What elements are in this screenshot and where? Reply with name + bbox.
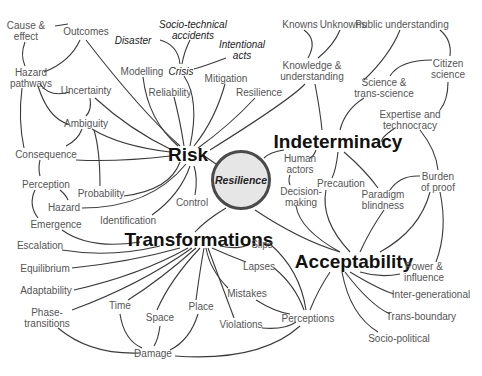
node-hazard-pathways: Hazard pathways [10,67,52,89]
node-phase-transitions: Phase- transitions [24,307,70,329]
edge-knowledge-indeterminacy [315,84,322,130]
edge-time-transformations [128,248,196,300]
node-public-understanding: Public understanding [355,19,448,30]
node-perceptions: Perceptions [282,313,335,324]
edge-consequence-risk [76,156,170,161]
edge-burden-power [436,192,443,262]
node-trans-boundary: Trans-boundary [386,311,456,322]
node-decision-making: Decision- making [280,186,322,208]
edge-equilibrium-transformations [72,248,180,268]
edge-public-citizen [440,30,450,56]
edge-expertise-burden [420,130,438,170]
edge-ambiguity-probability [94,130,100,186]
node-knowns: Knowns [282,19,318,30]
edge-acceptability-transboundary [345,272,390,314]
node-precaution: Precaution [317,178,365,189]
node-inter-generational: Inter-generational [392,289,470,300]
node-paradigm-blindness: Paradigm blindness [362,189,405,211]
node-knowledge-understanding: Knowledge & understanding [280,60,343,82]
resilience-center-label: Resilience [215,174,267,186]
node-modelling: Modelling [121,66,164,77]
node-power-influence: Power & influence [404,261,444,283]
node-socio-technical-accidents: Socio-technical accidents [159,19,227,41]
edge-ambiguity-consequence [66,129,82,146]
node-damage: Damage [134,348,172,359]
node-burden-of-proof: Burden of proof [421,171,455,193]
node-equilibrium: Equilibrium [20,263,69,274]
node-space: Space [146,312,174,323]
node-science-trans-science: Science & trans-science [354,77,413,99]
node-escalation: Escalation [17,240,63,251]
node-lapses: Lapses [243,261,275,272]
node-probability: Probability [78,188,125,199]
node-citizen-science: Citizen science [431,58,465,80]
node-control: Control [176,197,208,208]
edge-knowns-knowledge [304,30,312,58]
node-crisis: Crisis [169,66,194,77]
edge-perception-emergence [32,190,38,218]
node-emergence: Emergence [30,219,81,230]
edge-indeterminacy-precaution [332,152,338,178]
edge-lapses-perceptions [274,268,304,310]
node-outcomes: Outcomes [63,26,109,37]
hub-indeterminacy: Indeterminacy [274,131,403,153]
node-adaptability: Adaptability [20,285,72,296]
edge-mitigation-risk [194,84,225,146]
edge-identification-risk [152,166,190,215]
edge-precaution-acceptability [325,190,350,252]
node-identification: Identification [100,215,156,226]
edge-reliability-risk [174,97,184,146]
edge-place-transformations [196,248,204,300]
edge-perceptions-acceptability [310,272,330,310]
node-place: Place [188,301,213,312]
hub-acceptability: Acceptability [295,251,413,273]
edge-ambiguity-risk [92,129,170,152]
node-socio-political: Socio-political [368,333,430,344]
edge-disaster-crisis [160,40,180,64]
edge-uncertainty-ambiguity [86,98,91,116]
node-uncertainty: Uncertainty [61,85,112,96]
edge-science-indeterminacy [340,98,364,130]
node-perception: Perception [22,179,70,190]
edge-citizen-science [390,60,432,76]
node-human-actors: Human actors [284,153,316,175]
edge-unknowns-knowledge [318,30,340,58]
edge-time-damage [120,314,142,348]
node-resilience: Resilience [236,87,282,98]
node-mitigation: Mitigation [205,73,248,84]
edge-phase-damage [58,328,140,353]
edge-sociotech-crisis [182,40,190,64]
edge-cause-hazardpathways [23,42,26,66]
edge-public-science [364,30,400,80]
node-reliability: Reliability [149,87,192,98]
edge-citizen-expertise [440,82,448,110]
node-cause-effect: Cause & effect [7,20,45,42]
node-consequence: Consequence [15,149,77,160]
node-mistakes: Mistakes [227,288,266,299]
edge-hazardpathways-consequence [20,88,24,148]
edge-damage-perceptions [175,326,300,357]
node-intentional-acts: Intentional acts [219,39,265,61]
edge-control-risk [194,166,196,195]
edge-burden-paradigm [390,176,420,190]
node-expertise-technocracy: Expertise and technocracy [379,109,440,131]
edge-consequence-perception [39,160,40,176]
hub-risk: Risk [168,144,208,166]
node-disaster: Disaster [115,35,152,46]
node-ambiguity: Ambiguity [64,118,108,129]
edge-hazard-risk [82,164,186,208]
edge-place-damage [170,314,198,350]
edge-resilience-risk [198,98,255,148]
node-hazard: Hazard [48,202,80,213]
node-time: Time [109,300,131,311]
edge-human-decision [289,175,290,185]
edge-space-damage [154,326,160,346]
node-slips: Slips [251,239,273,250]
edge-paradigm-acceptability [360,210,384,252]
node-violations: Violations [219,319,262,330]
edge-perception-hazard [60,190,68,200]
